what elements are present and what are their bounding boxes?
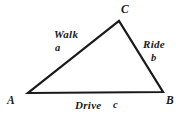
side-variable-b: b	[151, 53, 157, 64]
side-variable-c: c	[113, 100, 118, 111]
triangle-figure: A B C Walk a Ride b Drive c	[0, 0, 186, 119]
triangle-outline	[28, 21, 163, 93]
vertex-label-b: B	[166, 95, 174, 107]
side-variable-a: a	[55, 43, 61, 54]
vertex-label-c: C	[121, 4, 129, 16]
side-name-walk: Walk	[54, 29, 78, 40]
side-name-drive: Drive	[75, 100, 102, 111]
side-name-ride: Ride	[143, 39, 165, 50]
vertex-label-a: A	[7, 95, 15, 107]
